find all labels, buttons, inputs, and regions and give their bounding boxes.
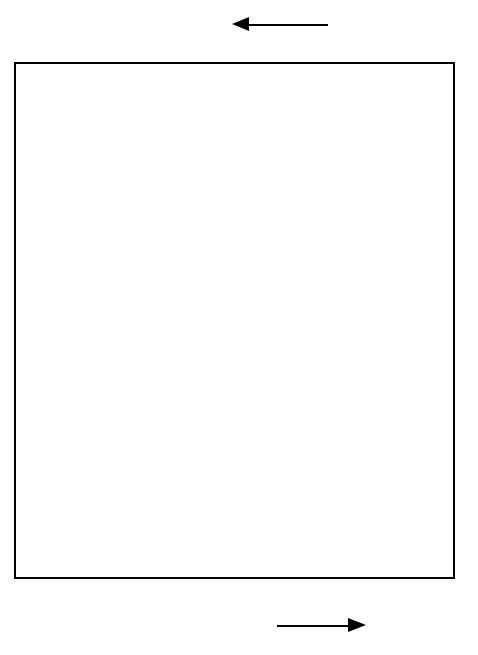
i-axis-arrow-line <box>246 24 328 26</box>
chart-root <box>0 0 478 655</box>
chart-grid <box>14 62 455 579</box>
right-arrow-icon <box>348 618 366 632</box>
d-axis-arrow-line <box>277 625 355 627</box>
d-axis-arrow-group <box>252 615 382 637</box>
i-axis-arrow-group <box>232 14 372 36</box>
